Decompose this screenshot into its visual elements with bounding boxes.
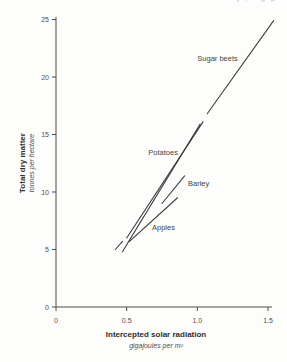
x-tick-label: 1.0 — [192, 317, 202, 324]
series-line-apples — [129, 198, 177, 242]
y-tick-label: 25 — [41, 16, 49, 23]
axes-layer: 00.51.01.50510152025 — [41, 16, 273, 324]
line-chart: 00.51.01.50510152025 Sugar beetsPotatoes… — [0, 0, 287, 362]
series-label-sugar-beets: Sugar beets — [197, 54, 238, 63]
y-tick-label: 10 — [41, 189, 49, 196]
series-label-potatoes: Potatoes — [148, 148, 178, 157]
series-label-apples: Apples — [152, 223, 175, 232]
figure-page: y, pp 00.51.01.50510152025 Sugar beetsPo… — [0, 0, 287, 362]
y-tick-label: 5 — [45, 246, 49, 253]
x-tick-label: 1.5 — [263, 317, 273, 324]
x-axis-subtitle: gigajoules per m² — [129, 342, 183, 350]
x-tick-label: 0.5 — [122, 317, 132, 324]
series-label-barley: Barley — [188, 179, 210, 188]
series-line-potatoes — [115, 241, 122, 249]
y-tick-label: 20 — [41, 74, 49, 81]
y-tick-label: 15 — [41, 131, 49, 138]
series-line-sugar-beets — [207, 21, 273, 114]
y-tick-label: 0 — [45, 304, 49, 311]
series-layer: Sugar beetsPotatoesBarleyApples — [115, 21, 273, 252]
y-axis-subtitle: tonnes per hectare — [28, 134, 36, 192]
x-axis-title: Intercepted solar radiation — [106, 330, 207, 339]
x-tick-label: 0 — [54, 317, 58, 324]
y-axis-title: Total dry matter — [18, 133, 27, 193]
